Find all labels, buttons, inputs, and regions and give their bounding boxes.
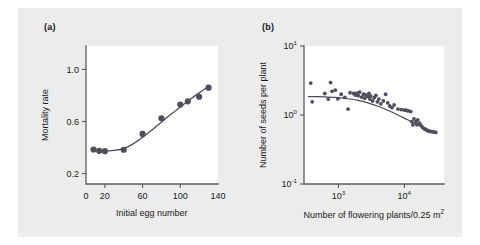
- data-point: [374, 94, 378, 98]
- data-point: [96, 148, 102, 154]
- panel-a-y-axis-title: Mortality rate: [40, 89, 50, 141]
- data-point: [392, 103, 396, 107]
- data-point: [196, 94, 202, 100]
- data-point: [158, 115, 164, 121]
- panel-b: (b) 10-1100101103104 Number of flowering…: [240, 8, 462, 237]
- data-point: [330, 89, 334, 93]
- data-point: [323, 92, 327, 96]
- y-tick-label: 10-1: [281, 177, 297, 189]
- plot-area: [86, 46, 218, 184]
- y-tick-label: 101: [284, 39, 298, 51]
- panel-b-x-axis-title-superscript: 2: [441, 208, 445, 215]
- data-point: [409, 110, 413, 114]
- data-point: [177, 101, 183, 107]
- panel-b-plot: 10-1100101103104: [240, 8, 462, 237]
- panel-b-x-axis-title: Number of flowering plants/0.25 m2: [304, 208, 445, 220]
- data-point: [363, 96, 367, 100]
- x-tick-label: 100: [173, 191, 188, 201]
- data-point: [309, 81, 313, 85]
- data-point: [102, 148, 108, 154]
- panel-a-plot: 0.20.61.002060100140: [18, 8, 240, 237]
- data-point: [434, 130, 438, 134]
- y-tick-label: 1.0: [66, 65, 79, 75]
- panel-b-y-axis-title: Number of seeds per plant: [258, 62, 268, 168]
- data-point: [396, 107, 400, 111]
- data-point: [185, 98, 191, 104]
- y-tick-label: 100: [284, 108, 298, 120]
- y-tick-label: 0.2: [66, 169, 79, 179]
- data-point: [348, 91, 352, 95]
- x-tick-label: 20: [100, 191, 110, 201]
- x-tick-label: 140: [210, 191, 225, 201]
- data-point: [329, 81, 333, 85]
- data-point: [384, 92, 388, 96]
- data-point: [326, 97, 330, 101]
- x-tick-label: 60: [138, 191, 148, 201]
- data-point: [356, 94, 360, 98]
- x-tick-label: 104: [398, 189, 412, 201]
- panel-a-x-axis-title: Initial egg number: [116, 208, 188, 218]
- data-point: [205, 85, 211, 91]
- data-point: [343, 95, 347, 99]
- data-point: [379, 102, 383, 106]
- data-point: [386, 101, 390, 105]
- panel-b-x-axis-title-text: Number of flowering plants/0.25 m: [304, 210, 441, 220]
- plot-area: [304, 46, 444, 184]
- data-point: [371, 99, 375, 103]
- panel-a: (a) 0.20.61.002060100140 Initial egg num…: [18, 8, 240, 237]
- data-point: [139, 131, 145, 137]
- data-point: [411, 123, 415, 127]
- data-point: [377, 97, 381, 101]
- data-point: [310, 100, 314, 104]
- data-point: [334, 88, 338, 92]
- data-point: [121, 147, 127, 153]
- x-tick-label: 103: [332, 189, 346, 201]
- y-tick-label: 0.6: [66, 117, 79, 127]
- figure-container: (a) 0.20.61.002060100140 Initial egg num…: [18, 8, 462, 237]
- x-tick-label: 0: [83, 191, 88, 201]
- data-point: [336, 97, 340, 101]
- data-point: [416, 118, 420, 122]
- data-point: [339, 92, 343, 96]
- data-point: [358, 90, 362, 94]
- data-point: [381, 99, 385, 103]
- data-point: [346, 107, 350, 111]
- data-point: [90, 146, 96, 152]
- data-point: [369, 94, 373, 98]
